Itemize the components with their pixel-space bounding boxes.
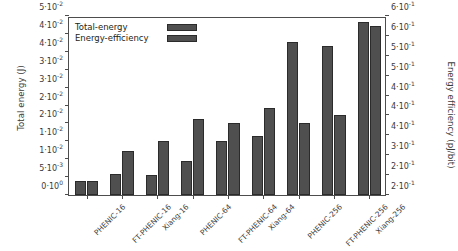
y-axis-left-tick-label: 2·10-2	[39, 94, 63, 102]
bar-total-energy	[110, 174, 121, 195]
y-axis-left-tick-label: 2·10-2	[39, 111, 63, 119]
y-axis-right-tick-label: 6·10-1	[391, 4, 415, 12]
legend-label-energy-efficiency: Energy-efficiency	[75, 33, 148, 44]
legend-item-total-energy: Total-energy	[75, 22, 275, 33]
y-axis-right-tick-label: 2·10-1	[391, 183, 415, 191]
y-axis-left-tick-label: 0·100	[41, 183, 63, 191]
bar-group	[281, 18, 316, 195]
chart-legend: Total-energy Energy-efficiency	[75, 22, 275, 44]
y-axis-left-tick-label: 1·10-2	[39, 147, 63, 155]
bar-energy-efficiency	[158, 141, 169, 195]
legend-label-total-energy: Total-energy	[75, 22, 128, 33]
y-axis-right-tick	[385, 15, 389, 16]
legend-swatch-energy-efficiency	[167, 35, 197, 42]
x-axis-tick	[369, 195, 370, 199]
bar-group	[69, 18, 104, 195]
bar-group	[104, 18, 139, 195]
bar-series-container	[69, 18, 385, 195]
x-axis-tick	[157, 195, 158, 199]
bar-group	[246, 18, 281, 195]
x-axis-tick	[228, 195, 229, 199]
x-axis-tick	[122, 195, 123, 199]
y-axis-right-title: Energy efficiency (pJ/bit)	[444, 17, 458, 213]
bar-total-energy	[358, 22, 369, 195]
y-axis-right-tick-label: 4·10-1	[391, 84, 415, 92]
y-axis-left-tick-label: 4·10-2	[39, 40, 63, 48]
bar-total-energy	[181, 161, 192, 195]
plot-area: 0·1005·10-31·10-21·10-22·10-22·10-23·10-…	[68, 17, 386, 196]
y-axis-left-tick-label: 3·10-2	[39, 58, 63, 66]
bar-group	[175, 18, 210, 195]
bar-total-energy	[287, 42, 298, 195]
bar-energy-efficiency	[370, 26, 381, 195]
y-axis-left-tick-label: 3·10-2	[39, 76, 63, 84]
legend-swatch-total-energy	[167, 24, 197, 31]
y-axis-left-tick-label: 5·10-3	[39, 165, 63, 173]
legend-item-energy-efficiency: Energy-efficiency	[75, 33, 275, 44]
bar-energy-efficiency	[122, 151, 133, 195]
bar-group	[140, 18, 175, 195]
y-axis-right-tick-label: 4·10-1	[391, 103, 415, 111]
bar-energy-efficiency	[228, 123, 239, 195]
bar-total-energy	[216, 141, 227, 195]
bar-group	[352, 18, 387, 195]
bar-total-energy	[75, 181, 86, 195]
x-axis-label: PHENIC-256	[306, 203, 343, 240]
bar-group	[210, 18, 245, 195]
bar-total-energy	[322, 46, 333, 195]
y-axis-left-tick-label: 4·10-2	[39, 22, 63, 30]
bar-energy-efficiency	[299, 123, 310, 195]
y-axis-right-tick-label: 6·10-1	[391, 24, 415, 32]
y-axis-right-tick-label: 3·10-1	[391, 143, 415, 151]
bar-energy-efficiency	[87, 181, 98, 195]
bar-total-energy	[252, 136, 263, 195]
bar-total-energy	[146, 175, 157, 195]
y-axis-left-tick	[65, 15, 69, 16]
y-axis-right-tick-label: 2·10-1	[391, 163, 415, 171]
y-axis-left-tick-label: 5·10-2	[39, 4, 63, 12]
bar-energy-efficiency	[334, 115, 345, 195]
y-axis-right-tick-label: 5·10-1	[391, 64, 415, 72]
bar-energy-efficiency	[193, 119, 204, 195]
y-axis-left-title: Total energy (J)	[14, 0, 28, 196]
x-axis-label: PHENIC-16	[93, 203, 127, 237]
bar-energy-efficiency	[264, 108, 275, 196]
y-axis-right-tick-label: 4·10-1	[391, 123, 415, 131]
x-axis-label: PHENIC-64	[199, 203, 233, 237]
x-axis-tick	[193, 195, 194, 199]
y-axis-left-tick-label: 1·10-2	[39, 129, 63, 137]
bar-group	[316, 18, 351, 195]
y-axis-right-tick-label: 5·10-1	[391, 44, 415, 52]
x-axis-tick	[299, 195, 300, 199]
x-axis-tick	[334, 195, 335, 199]
x-axis-tick	[263, 195, 264, 199]
x-axis-tick	[87, 195, 88, 199]
energy-bar-chart-figure: Total energy (J) Energy efficiency (pJ/b…	[0, 0, 458, 251]
